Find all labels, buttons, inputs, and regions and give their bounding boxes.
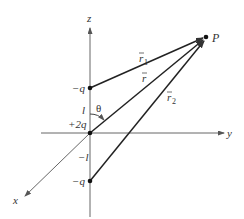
charge-bottom-label: −q (72, 175, 85, 187)
svg-text:1: 1 (144, 58, 148, 67)
charge-bottom-dot (88, 179, 93, 184)
distance-lower-label: −l (78, 151, 88, 163)
vector-r (90, 40, 203, 133)
charge-center-label: +2q (68, 118, 87, 130)
svg-text:r: r (142, 72, 147, 84)
vector-r1-label: r 1 (139, 52, 148, 67)
vector-r2-label: r 2 (167, 91, 176, 106)
y-axis-label: y (226, 127, 232, 139)
theta-arc (90, 114, 104, 120)
charge-top-dot (88, 86, 93, 91)
charge-center-dot (88, 131, 93, 136)
point-p-label: P (211, 31, 220, 45)
x-axis-label: x (12, 194, 18, 206)
vector-r-label: r (142, 72, 147, 84)
svg-text:2: 2 (172, 97, 176, 106)
theta-label: θ (96, 102, 101, 114)
charge-top-label: −q (72, 82, 85, 94)
point-p-dot (204, 35, 209, 40)
distance-upper-label: l (82, 104, 85, 116)
z-axis-label: z (86, 12, 92, 24)
dipole-diagram: z y x P −q +2q −q l −l θ r 1 r r 2 (0, 0, 244, 219)
